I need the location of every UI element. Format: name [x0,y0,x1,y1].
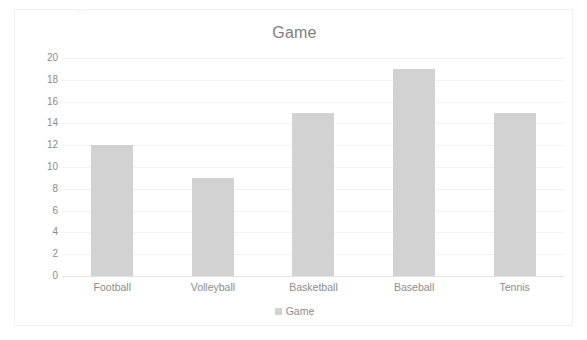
y-axis-tick-label: 16 [15,97,58,107]
gridline-0 [62,276,565,277]
bar-volleyball[interactable] [192,178,234,276]
bar-tennis[interactable] [494,113,536,277]
chart-title: Game [15,24,574,42]
chart-legend[interactable]: Game [15,306,574,317]
x-axis-tick-label: Football [94,280,131,294]
y-axis-tick-label: 10 [15,162,58,172]
x-axis-tick-label: Volleyball [191,280,235,294]
bar-baseball[interactable] [393,69,435,276]
legend-swatch-icon [275,308,282,315]
x-axis-tick-label: Basketball [289,280,337,294]
plot-area [62,58,565,276]
capture-artifact [77,10,87,13]
y-axis-tick-label: 6 [15,206,58,216]
bar-football[interactable] [91,145,133,276]
bar-slot [62,58,163,276]
bar-basketball[interactable] [292,113,334,277]
bar-slot [464,58,565,276]
y-axis-tick-label: 2 [15,249,58,259]
y-axis-tick-label: 14 [15,118,58,128]
y-axis-tick-label: 8 [15,184,58,194]
x-axis-tick-label: Tennis [500,280,530,294]
chart-container[interactable]: Game 20181614121086420 FootballVolleybal… [14,9,573,326]
bar-slot [364,58,465,276]
y-axis-tick-label: 12 [15,140,58,150]
x-axis: FootballVolleyballBasketballBaseballTenn… [62,280,565,296]
legend-label: Game [286,306,315,317]
y-axis-tick-label: 4 [15,227,58,237]
bar-series-game[interactable] [62,58,565,276]
y-axis-tick-label: 18 [15,75,58,85]
legend-item[interactable]: Game [275,306,315,317]
y-axis-tick-label: 0 [15,271,58,281]
bar-slot [163,58,264,276]
bar-slot [263,58,364,276]
y-axis: 20181614121086420 [15,58,58,276]
y-axis-tick-label: 20 [15,53,58,63]
x-axis-tick-label: Baseball [394,280,434,294]
